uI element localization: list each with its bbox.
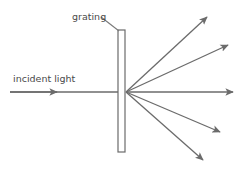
diffracted-ray-order-plus-1: [126, 45, 228, 92]
diffraction-grating-diagram: grating incident light: [0, 0, 245, 175]
diffracted-ray-order-plus-2: [126, 17, 207, 92]
grating-plate: [118, 30, 125, 152]
grating-label: grating: [72, 11, 106, 22]
diffracted-ray-order-minus-1: [126, 92, 220, 132]
incident-light-label: incident light: [13, 73, 75, 84]
diffracted-ray-order-minus-2: [126, 92, 203, 160]
diffracted-rays-group: [126, 17, 233, 160]
diagram-canvas: grating incident light: [0, 0, 245, 175]
